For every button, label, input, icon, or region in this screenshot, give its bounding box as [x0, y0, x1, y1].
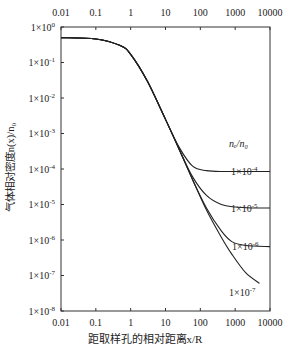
chart-plot-area: 0.010.1110100100010000 0.010.11101001000… — [0, 0, 290, 356]
x-tick-bottom-label: 1000 — [225, 317, 245, 328]
x-tick-bottom-label: 10000 — [258, 317, 283, 328]
curve-annotations: 1×10-41×10-51×10-61×10-7 — [229, 165, 259, 298]
x-tick-top-label: 10 — [161, 7, 171, 18]
curve-5 — [61, 38, 270, 208]
y-tick-label: 1×10-7 — [29, 269, 56, 281]
x-tick-top-label: 1000 — [225, 7, 245, 18]
x-tick-bottom-label: 1 — [128, 317, 133, 328]
x-tick-top-label: 100 — [193, 7, 208, 18]
x-tick-top-label: 0.01 — [52, 7, 70, 18]
curve-label: 1×10-6 — [232, 240, 259, 252]
legend-title: nₑ/n₀ — [229, 138, 248, 149]
y-tick-label: 1×100 — [31, 21, 56, 33]
y-tick-label: 1×10-3 — [29, 127, 56, 139]
y-axis: 1×1001×10-11×10-21×10-31×10-41×10-51×10-… — [29, 21, 64, 317]
curve-label: 1×10-7 — [229, 286, 256, 298]
curve-7 — [61, 38, 260, 284]
y-tick-label: 1×10-8 — [29, 305, 56, 317]
x-tick-bottom-label: 100 — [193, 317, 208, 328]
y-tick-label: 1×10-6 — [29, 234, 56, 246]
y-tick-label: 1×10-4 — [29, 163, 56, 175]
x-axis-label: 距取样孔的相对距离x/R — [0, 330, 290, 346]
x-tick-top-label: 0.1 — [90, 7, 103, 18]
y-axis-label: 气体相对密度n(x)/n₀ — [2, 93, 17, 243]
curve-label: 1×10-4 — [231, 165, 258, 177]
x-tick-bottom-label: 0.01 — [52, 317, 70, 328]
x-tick-bottom-label: 10 — [161, 317, 171, 328]
y-tick-label: 1×10-1 — [29, 56, 56, 68]
x-tick-top-label: 1 — [128, 7, 133, 18]
curve-label: 1×10-5 — [231, 202, 258, 214]
y-tick-label: 1×10-2 — [29, 92, 56, 104]
y-tick-label: 1×10-5 — [29, 198, 56, 210]
curve-4 — [61, 38, 270, 172]
x-tick-top-label: 10000 — [258, 7, 283, 18]
x-tick-bottom-label: 0.1 — [90, 317, 103, 328]
